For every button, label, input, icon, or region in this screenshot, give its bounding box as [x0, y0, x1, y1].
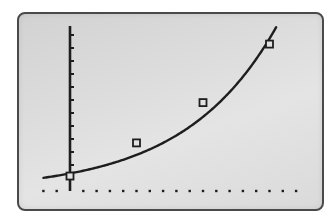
x-axis-dot: [189, 190, 191, 192]
x-axis-dot: [215, 190, 217, 192]
x-axis: [42, 190, 297, 192]
x-axis-dot: [255, 190, 257, 192]
x-axis-dot: [175, 190, 177, 192]
x-axis-dot: [202, 190, 204, 192]
x-axis-dot: [268, 190, 270, 192]
x-axis-dot: [295, 190, 297, 192]
x-axis-dot: [228, 190, 230, 192]
x-axis-dot: [122, 190, 124, 192]
x-axis-dot: [242, 190, 244, 192]
data-point-square: [67, 173, 74, 180]
data-point-square: [200, 99, 207, 106]
data-point-square: [133, 139, 140, 146]
x-axis-dot: [162, 190, 164, 192]
x-axis-dot: [282, 190, 284, 192]
x-axis-dot: [82, 190, 84, 192]
x-axis-dot: [135, 190, 137, 192]
x-axis-dot: [56, 190, 58, 192]
x-axis-dot: [42, 190, 44, 192]
x-axis-dot: [109, 190, 111, 192]
data-points: [67, 41, 274, 180]
regression-curve: [43, 27, 276, 178]
plot-area: [0, 0, 326, 222]
data-point-square: [266, 41, 273, 48]
x-axis-dot: [149, 190, 151, 192]
y-axis: [70, 26, 74, 191]
x-axis-dot: [95, 190, 97, 192]
